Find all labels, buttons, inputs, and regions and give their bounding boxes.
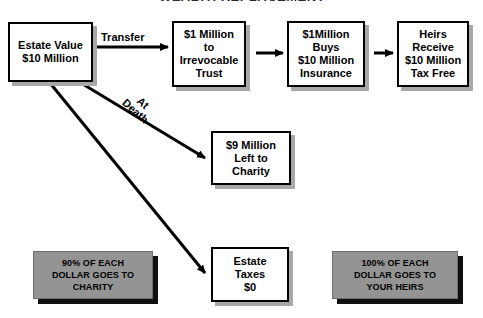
wealth-replacement-diagram: WEALTH REPLACEMENT Estate Value $10 Mill… xyxy=(0,0,483,318)
node-estate-taxes: Estate Taxes $0 xyxy=(211,247,289,302)
node-label-irrevocable-trust: $1 Million to Irrevocable Trust xyxy=(180,28,239,80)
node-heirs-result: 100% OF EACH DOLLAR GOES TO YOUR HEIRS xyxy=(332,251,458,299)
node-label-heirs-receive: Heirs Receive $10 Million Tax Free xyxy=(405,28,461,80)
node-label-charity-result: 90% OF EACH DOLLAR GOES TO CHARITY xyxy=(52,257,134,293)
node-label-estate-value: Estate Value $10 Million xyxy=(18,39,83,65)
node-label-heirs-result: 100% OF EACH DOLLAR GOES TO YOUR HEIRS xyxy=(354,257,436,293)
node-insurance: $1Million Buys $10 Million Insurance xyxy=(287,21,365,87)
edge-label-at-death-arrow: At Death xyxy=(120,89,157,126)
node-charity-remainder: $9 Million Left to Charity xyxy=(211,131,291,185)
node-irrevocable-trust: $1 Million to Irrevocable Trust xyxy=(172,21,246,87)
edge-label-transfer-arrow: Transfer xyxy=(101,32,144,43)
node-charity-result: 90% OF EACH DOLLAR GOES TO CHARITY xyxy=(33,251,153,299)
node-estate-value: Estate Value $10 Million xyxy=(8,22,93,82)
node-heirs-receive: Heirs Receive $10 Million Tax Free xyxy=(397,21,469,87)
node-label-charity-remainder: $9 Million Left to Charity xyxy=(226,139,276,178)
diagram-title-cropped: WEALTH REPLACEMENT xyxy=(152,0,332,2)
node-label-estate-taxes: Estate Taxes $0 xyxy=(233,255,266,294)
node-label-insurance: $1Million Buys $10 Million Insurance xyxy=(298,28,354,80)
